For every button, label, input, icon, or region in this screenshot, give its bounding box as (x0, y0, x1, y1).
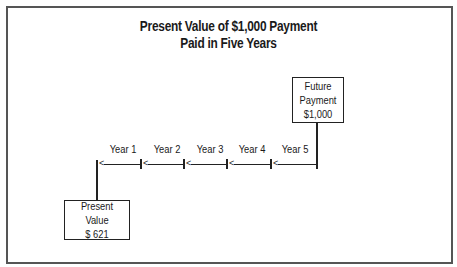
timeline-tick-4 (270, 159, 272, 169)
year-label-5: Year 5 (276, 143, 313, 155)
title-line-2: Paid in Five Years (34, 35, 422, 52)
future-amount: $1,000 (297, 107, 340, 121)
title-line-1: Present Value of $1,000 Payment (34, 18, 422, 35)
year-label-3: Year 3 (191, 143, 228, 155)
future-label-2: Payment (297, 93, 340, 107)
year-label-1: Year 1 (104, 143, 141, 155)
timeline-tick-3 (226, 159, 228, 169)
present-amount: $ 621 (70, 227, 124, 241)
year-label-4: Year 4 (233, 143, 270, 155)
future-connector-line (316, 122, 318, 169)
timeline-segment-1 (104, 164, 140, 165)
diagram-title: Present Value of $1,000 Payment Paid in … (34, 18, 422, 52)
future-payment-box: Future Payment $1,000 (292, 77, 344, 123)
present-connector-line (96, 160, 98, 200)
timeline-segment-2 (148, 164, 183, 165)
timeline-tick-2 (183, 159, 185, 169)
year-label-2: Year 2 (148, 143, 185, 155)
present-label: Present Value (70, 199, 124, 227)
timeline-tick-1 (140, 159, 142, 169)
timeline-segment-4 (234, 164, 270, 165)
future-label-1: Future (297, 79, 340, 93)
timeline-segment-5 (278, 164, 316, 165)
present-value-box: Present Value $ 621 (64, 200, 130, 240)
timeline-segment-3 (191, 164, 226, 165)
